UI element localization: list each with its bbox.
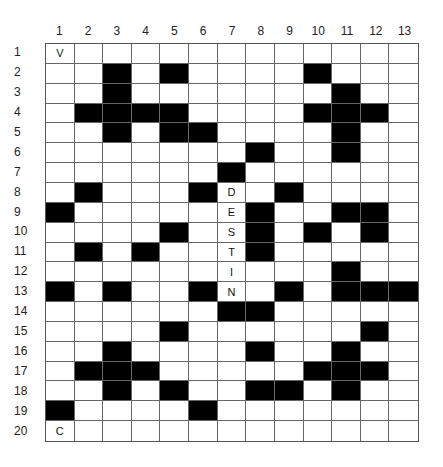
grid-cell[interactable] bbox=[361, 243, 390, 263]
grid-cell[interactable] bbox=[304, 163, 333, 183]
grid-cell[interactable] bbox=[189, 104, 218, 124]
grid-cell[interactable] bbox=[304, 302, 333, 322]
grid-cell[interactable] bbox=[361, 342, 390, 362]
grid-cell[interactable] bbox=[304, 123, 333, 143]
grid-cell[interactable] bbox=[275, 262, 304, 282]
grid-cell[interactable] bbox=[304, 84, 333, 104]
grid-cell[interactable] bbox=[246, 123, 275, 143]
grid-cell[interactable] bbox=[132, 302, 161, 322]
grid-cell[interactable] bbox=[332, 183, 361, 203]
grid-cell[interactable] bbox=[361, 381, 390, 401]
grid-cell[interactable] bbox=[189, 84, 218, 104]
grid-cell[interactable] bbox=[189, 342, 218, 362]
grid-cell[interactable] bbox=[304, 282, 333, 302]
grid-cell[interactable] bbox=[246, 64, 275, 84]
grid-cell[interactable] bbox=[275, 123, 304, 143]
grid-cell[interactable] bbox=[160, 362, 189, 382]
grid-cell[interactable] bbox=[132, 322, 161, 342]
grid-cell[interactable] bbox=[160, 243, 189, 263]
grid-cell[interactable] bbox=[275, 223, 304, 243]
grid-cell[interactable] bbox=[132, 203, 161, 223]
grid-cell[interactable] bbox=[246, 44, 275, 64]
grid-cell[interactable] bbox=[246, 282, 275, 302]
grid-cell[interactable] bbox=[160, 262, 189, 282]
grid-cell[interactable] bbox=[275, 44, 304, 64]
grid-cell[interactable]: N bbox=[218, 282, 247, 302]
grid-cell[interactable] bbox=[46, 342, 75, 362]
grid-cell[interactable] bbox=[189, 203, 218, 223]
grid-cell[interactable] bbox=[103, 163, 132, 183]
grid-cell[interactable] bbox=[189, 262, 218, 282]
grid-cell[interactable] bbox=[304, 342, 333, 362]
grid-cell[interactable] bbox=[46, 143, 75, 163]
grid-cell[interactable] bbox=[275, 302, 304, 322]
grid-cell[interactable] bbox=[275, 84, 304, 104]
grid-cell[interactable] bbox=[46, 163, 75, 183]
grid-cell[interactable] bbox=[246, 262, 275, 282]
grid-cell[interactable] bbox=[275, 64, 304, 84]
grid-cell[interactable] bbox=[46, 104, 75, 124]
grid-cell[interactable] bbox=[103, 262, 132, 282]
grid-cell[interactable] bbox=[389, 183, 418, 203]
grid-cell[interactable] bbox=[160, 163, 189, 183]
grid-cell[interactable] bbox=[103, 203, 132, 223]
grid-cell[interactable] bbox=[132, 64, 161, 84]
grid-cell[interactable] bbox=[389, 262, 418, 282]
grid-cell[interactable] bbox=[46, 381, 75, 401]
grid-cell[interactable] bbox=[189, 64, 218, 84]
grid-cell[interactable] bbox=[189, 44, 218, 64]
grid-cell[interactable] bbox=[189, 302, 218, 322]
grid-cell[interactable] bbox=[304, 401, 333, 421]
grid-cell[interactable] bbox=[332, 44, 361, 64]
grid-cell[interactable]: E bbox=[218, 203, 247, 223]
grid-cell[interactable] bbox=[132, 163, 161, 183]
grid-cell[interactable] bbox=[75, 262, 104, 282]
grid-cell[interactable] bbox=[218, 381, 247, 401]
grid-cell[interactable]: I bbox=[218, 262, 247, 282]
grid-cell[interactable] bbox=[132, 44, 161, 64]
grid-cell[interactable] bbox=[75, 123, 104, 143]
grid-cell[interactable] bbox=[75, 84, 104, 104]
grid-cell[interactable] bbox=[389, 342, 418, 362]
grid-cell[interactable] bbox=[132, 123, 161, 143]
grid-cell[interactable] bbox=[389, 223, 418, 243]
grid-cell[interactable] bbox=[304, 322, 333, 342]
grid-cell[interactable] bbox=[361, 401, 390, 421]
grid-cell[interactable] bbox=[189, 362, 218, 382]
grid-cell[interactable] bbox=[75, 282, 104, 302]
grid-cell[interactable] bbox=[218, 84, 247, 104]
grid-cell[interactable] bbox=[275, 322, 304, 342]
grid-cell[interactable] bbox=[332, 223, 361, 243]
grid-cell[interactable] bbox=[75, 64, 104, 84]
grid-cell[interactable] bbox=[218, 44, 247, 64]
grid-cell[interactable] bbox=[46, 223, 75, 243]
grid-cell[interactable] bbox=[304, 381, 333, 401]
grid-cell[interactable] bbox=[275, 203, 304, 223]
grid-cell[interactable] bbox=[332, 421, 361, 441]
grid-cell[interactable] bbox=[75, 223, 104, 243]
grid-cell[interactable] bbox=[132, 421, 161, 441]
grid-cell[interactable] bbox=[361, 84, 390, 104]
grid-cell[interactable] bbox=[132, 342, 161, 362]
grid-cell[interactable] bbox=[160, 143, 189, 163]
grid-cell[interactable] bbox=[189, 223, 218, 243]
grid-cell[interactable] bbox=[304, 183, 333, 203]
grid-cell[interactable] bbox=[160, 302, 189, 322]
grid-cell[interactable] bbox=[103, 223, 132, 243]
grid-cell[interactable] bbox=[361, 44, 390, 64]
grid-cell[interactable] bbox=[189, 163, 218, 183]
grid-cell[interactable] bbox=[75, 44, 104, 64]
grid-cell[interactable] bbox=[218, 421, 247, 441]
grid-cell[interactable] bbox=[389, 203, 418, 223]
grid-cell[interactable] bbox=[332, 401, 361, 421]
grid-cell[interactable] bbox=[246, 322, 275, 342]
grid-cell[interactable] bbox=[389, 163, 418, 183]
grid-cell[interactable] bbox=[246, 401, 275, 421]
grid-cell[interactable] bbox=[304, 262, 333, 282]
grid-cell[interactable] bbox=[75, 302, 104, 322]
grid-cell[interactable] bbox=[46, 262, 75, 282]
grid-cell[interactable] bbox=[132, 282, 161, 302]
grid-cell[interactable] bbox=[218, 143, 247, 163]
grid-cell[interactable] bbox=[361, 143, 390, 163]
grid-cell[interactable] bbox=[218, 104, 247, 124]
